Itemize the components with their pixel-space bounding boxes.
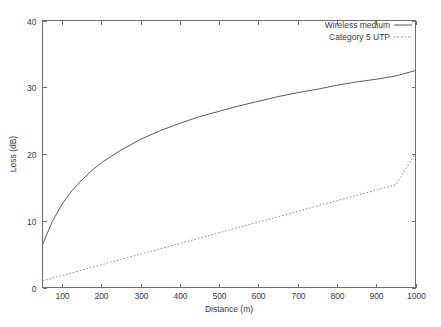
series-line-wireless-medium [43, 71, 416, 245]
x-tick-label: 1000 [407, 291, 426, 301]
y-tick-label: 20 [27, 150, 37, 160]
x-tick-label: 600 [251, 291, 265, 301]
y-axis-tick-labels: 010203040 [27, 17, 37, 294]
chart-figure: 010203040 100200300400500600700800900100… [0, 0, 441, 327]
data-series-layer [43, 71, 416, 281]
plot-frame [43, 21, 416, 288]
x-tick-label: 800 [330, 291, 344, 301]
x-tick-label: 900 [369, 291, 383, 301]
x-tick-label: 700 [291, 291, 305, 301]
axis-tick-marks [43, 21, 417, 289]
series-line-category-5-utp [43, 153, 416, 280]
x-tick-label: 200 [94, 291, 108, 301]
y-axis-title: Loss (dB) [8, 136, 18, 173]
y-tick-label: 0 [32, 284, 37, 294]
x-axis-tick-labels: 1002003004005006007008009001000 [55, 291, 426, 301]
legend-item-wireless-medium-label: Wireless medium [325, 20, 390, 30]
y-tick-label: 40 [27, 17, 37, 27]
x-tick-label: 500 [212, 291, 226, 301]
x-tick-label: 100 [55, 291, 69, 301]
legend-item-category-5-utp-label: Category 5 UTP [329, 32, 390, 42]
y-tick-label: 30 [27, 83, 37, 93]
chart-legend: Wireless medium Category 5 UTP [325, 20, 412, 42]
x-axis-title: Distance (m) [205, 304, 253, 314]
chart-canvas: 010203040 100200300400500600700800900100… [0, 0, 441, 327]
x-tick-label: 400 [173, 291, 187, 301]
y-tick-label: 10 [27, 217, 37, 227]
x-tick-label: 300 [134, 291, 148, 301]
